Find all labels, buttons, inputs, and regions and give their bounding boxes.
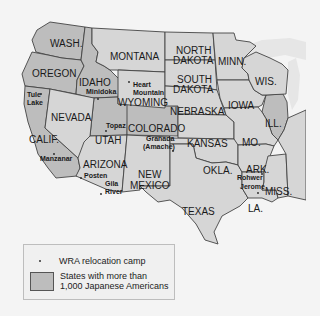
label-ca: CALIF. bbox=[29, 134, 59, 145]
camp-dot-icon bbox=[257, 192, 259, 194]
label-mn: MINN. bbox=[218, 56, 246, 67]
camp-dot-icon bbox=[105, 130, 107, 132]
lake-michigan bbox=[288, 58, 300, 110]
label-nv: NEVADA bbox=[51, 112, 92, 123]
label-wa: WASH. bbox=[50, 38, 82, 49]
svg-text:(Amache): (Amache) bbox=[143, 143, 175, 151]
svg-text:Rohwer: Rohwer bbox=[237, 174, 263, 181]
svg-text:Topaz: Topaz bbox=[106, 122, 126, 130]
label-or: OREGON bbox=[32, 68, 76, 79]
label-ms: MISS. bbox=[265, 186, 292, 197]
label-il: ILL. bbox=[265, 118, 282, 129]
camp-poston: Posten bbox=[80, 172, 107, 179]
camp-dot-icon bbox=[80, 177, 82, 179]
label-wy: WYOMING bbox=[118, 97, 168, 108]
legend-camp-row: WRA relocation camp bbox=[24, 256, 146, 266]
label-wi: WIS. bbox=[255, 76, 277, 87]
state-montana bbox=[92, 28, 165, 72]
svg-text:Mountain: Mountain bbox=[133, 89, 164, 96]
legend-shaded-label-1: States with more than bbox=[60, 271, 169, 281]
camp-dot-icon bbox=[100, 193, 102, 195]
camp-tule-lake: Tule Lake bbox=[27, 91, 43, 106]
label-co: COLORADO bbox=[128, 123, 185, 134]
state-kansas bbox=[178, 114, 234, 139]
label-ut: UTAH bbox=[95, 135, 121, 146]
label-id: IDAHO bbox=[79, 77, 111, 88]
legend-shaded-row: States with more than 1,000 Japanese Ame… bbox=[24, 271, 169, 291]
label-mo: MO. bbox=[242, 137, 261, 148]
camp-manzanar: Manzanar bbox=[40, 153, 73, 162]
label-nm2: MEXICO bbox=[130, 180, 170, 191]
label-az: ARIZONA bbox=[83, 159, 128, 170]
label-tx: TEXAS bbox=[182, 206, 215, 217]
label-la: LA. bbox=[248, 203, 263, 214]
label-ok: OKLA. bbox=[203, 165, 232, 176]
camp-dot-icon bbox=[39, 260, 41, 262]
svg-text:Lake: Lake bbox=[27, 99, 43, 106]
svg-text:Jerome: Jerome bbox=[240, 183, 265, 190]
camp-dot-icon bbox=[128, 81, 130, 83]
label-sd2: DAKOTA bbox=[173, 84, 214, 95]
camp-rohwer: Rohwer bbox=[237, 173, 263, 181]
svg-text:Heart: Heart bbox=[133, 81, 152, 88]
label-mt: MONTANA bbox=[110, 51, 160, 62]
svg-text:Tule: Tule bbox=[27, 91, 41, 98]
svg-text:Minidoka: Minidoka bbox=[86, 88, 116, 95]
svg-text:Posten: Posten bbox=[84, 172, 107, 179]
svg-text:Manzanar: Manzanar bbox=[40, 155, 73, 162]
shaded-swatch-icon bbox=[30, 272, 54, 291]
label-ia: IOWA bbox=[228, 100, 255, 111]
camp-dot-icon bbox=[97, 98, 99, 100]
svg-text:Granada: Granada bbox=[146, 135, 175, 142]
map-legend: WRA relocation camp States with more tha… bbox=[23, 244, 175, 300]
svg-text:Gila: Gila bbox=[105, 180, 118, 187]
label-nm1: NEW bbox=[138, 169, 162, 180]
label-ks: KANSAS bbox=[187, 138, 228, 149]
legend-shaded-label-2: 1,000 Japanese Americans bbox=[60, 281, 169, 291]
label-ne: NEBRASKA bbox=[170, 106, 225, 117]
label-nd2: DAKOTA bbox=[173, 55, 214, 66]
camp-granada-amache: Granada (Amache) bbox=[143, 135, 175, 152]
legend-camp-label: WRA relocation camp bbox=[59, 256, 146, 266]
camp-dot-icon bbox=[172, 150, 174, 152]
svg-text:River: River bbox=[105, 188, 123, 195]
